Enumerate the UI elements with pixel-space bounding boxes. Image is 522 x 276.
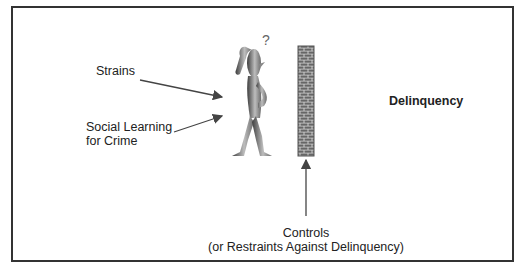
- social-learning-label-line1: Social Learning: [86, 120, 172, 134]
- strains-label: Strains: [96, 64, 135, 78]
- strains-arrow: [140, 80, 222, 97]
- delinquency-label: Delinquency: [389, 94, 463, 108]
- social-learning-label-line2: for Crime: [86, 134, 137, 148]
- controls-label-line1: Controls: [0, 226, 522, 240]
- controls-label-line2: (or Restraints Against Delinquency): [0, 240, 522, 254]
- social-learning-arrow: [174, 116, 222, 132]
- confused-person-figure: [232, 47, 272, 156]
- brick-wall: [298, 46, 314, 156]
- question-mark: ?: [262, 32, 270, 48]
